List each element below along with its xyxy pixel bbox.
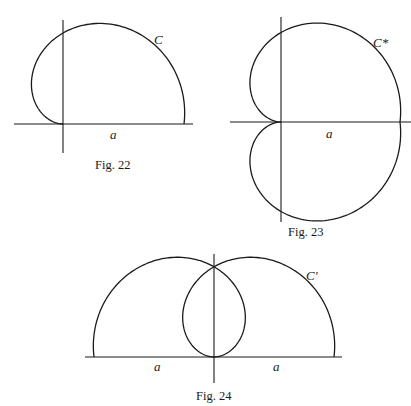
- fig22-curve-label: C: [154, 32, 163, 47]
- figure-24: C' a a Fig. 24: [85, 254, 342, 403]
- fig22-segment-label: a: [110, 127, 117, 142]
- fig24-segment-label-left: a: [154, 359, 161, 374]
- figure-23: C* a Fig. 23: [230, 17, 411, 239]
- fig23-caption: Fig. 23: [288, 225, 323, 239]
- fig24-segment-label-right: a: [273, 359, 280, 374]
- figure-22: C a Fig. 22: [14, 20, 193, 172]
- fig23-curve-label: C*: [373, 35, 389, 50]
- diagram-canvas: C a Fig. 22 C* a Fig. 23 C' a a Fig. 24: [0, 0, 411, 406]
- fig24-curve-label: C': [306, 268, 318, 283]
- fig24-curve-left-arc: [93, 257, 245, 357]
- fig24-caption: Fig. 24: [196, 389, 232, 403]
- fig23-segment-label: a: [326, 126, 333, 141]
- fig22-caption: Fig. 22: [95, 158, 130, 172]
